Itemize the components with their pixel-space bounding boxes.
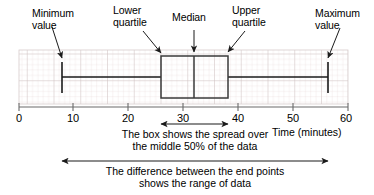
callout-label-maximum-value: Maximum value [315, 8, 360, 31]
boxplot-figure: Minimum value Lower quartile Median Uppe… [0, 0, 374, 195]
leader-upper-quartile [228, 31, 245, 52]
x-axis-title: Time (minutes) [272, 126, 342, 138]
callout-label-median: Median [172, 12, 206, 24]
callout-label-minimum-value: Minimum value [32, 8, 74, 31]
iqr-note: The box shows the spread over the middle… [122, 129, 269, 153]
range-note: The difference between the end points sh… [106, 166, 284, 190]
tick-label-50: 50 [287, 112, 299, 124]
tick-label-0: 0 [16, 112, 22, 124]
tick-label-20: 20 [122, 112, 134, 124]
callout-label-upper-quartile: Upper quartile [232, 5, 266, 28]
tick-label-40: 40 [232, 112, 244, 124]
tick-label-60: 60 [340, 112, 352, 124]
tick-label-30: 30 [177, 112, 189, 124]
tick-label-10: 10 [67, 112, 79, 124]
callout-label-lower-quartile: Lower quartile [113, 5, 147, 28]
